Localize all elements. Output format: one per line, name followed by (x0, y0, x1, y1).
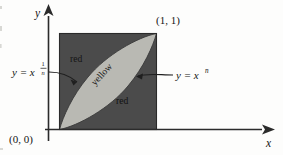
region-label-lower-right: red (116, 95, 128, 106)
exponent-numerator: 1 (42, 60, 45, 67)
y-axis-arrowhead (44, 4, 54, 16)
figure-canvas: y x (1, 1) (0, 0) red red yellow y = x 1… (0, 0, 283, 155)
corner-point-label: (1, 1) (156, 14, 180, 27)
equation-upper-curve-text: y = x (11, 66, 35, 78)
scan-artifact (0, 148, 3, 150)
scan-artifact (0, 26, 2, 31)
exponent-n: n (205, 67, 209, 75)
x-axis-label: x (265, 137, 272, 149)
y-axis-label: y (34, 7, 41, 20)
equation-upper-curve: y = x 1 n (11, 60, 47, 78)
equation-lower-curve-text: y = x (175, 69, 199, 81)
equation-lower-curve: y = x n (175, 67, 209, 81)
scan-artifact (0, 44, 2, 48)
x-axis-arrowhead (262, 125, 275, 135)
scan-artifact (0, 6, 2, 9)
origin-point-label: (0, 0) (9, 133, 33, 146)
exponent-denominator: n (42, 69, 45, 76)
region-label-upper-left: red (70, 53, 82, 64)
math-figure: y x (1, 1) (0, 0) red red yellow y = x 1… (0, 0, 283, 155)
